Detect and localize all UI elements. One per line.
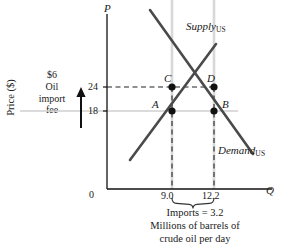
- imports-brace-label: Imports = 3.2: [133, 207, 257, 218]
- x-axis-variable-label: Q: [266, 184, 274, 196]
- data-point-C: [168, 83, 175, 90]
- data-point-D: [210, 83, 217, 90]
- y-axis-variable-label: P: [104, 2, 111, 14]
- origin-label: 0: [89, 189, 94, 200]
- supply-curve-subscript: US: [216, 25, 226, 34]
- demand-curve-label-text: Demand: [218, 144, 255, 156]
- caption-line-2: crude oil per day: [160, 233, 231, 244]
- point-label-C: C: [164, 72, 171, 84]
- data-point-A: [168, 107, 175, 114]
- caption-line-1: Millions of barrels of: [150, 220, 240, 231]
- economics-supply-demand-figure: Price ($) $6 Oil import fee: [0, 0, 284, 247]
- y-tick-label-18: 18: [88, 105, 98, 116]
- x-tick-label-12-2: 12.2: [202, 190, 220, 201]
- up-arrow-icon: [76, 87, 85, 128]
- supply-curve-label-text: Supply: [186, 20, 216, 32]
- point-label-B: B: [222, 98, 229, 110]
- point-label-D: D: [207, 72, 215, 84]
- data-point-B: [210, 107, 217, 114]
- demand-curve-subscript: US: [255, 149, 265, 158]
- x-axis-caption: Millions of barrels of crude oil per day: [100, 219, 284, 245]
- supply-curve-label: SupplyUS: [186, 20, 226, 32]
- demand-curve-label: DemandUS: [218, 144, 265, 156]
- y-tick-label-24: 24: [88, 81, 98, 92]
- x-tick-label-9: 9.0: [161, 190, 174, 201]
- point-label-A: A: [152, 98, 159, 110]
